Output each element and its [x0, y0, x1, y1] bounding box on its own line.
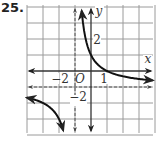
axes: [29, 9, 151, 131]
y-axis-label: y: [95, 4, 103, 18]
coordinate-graph: −212−2Oyx: [0, 0, 165, 148]
y-tick-label-2: 2: [93, 33, 101, 47]
y-tick-label-neg2: −2: [69, 90, 87, 104]
x-axis-label: x: [145, 52, 152, 66]
origin-label: O: [75, 72, 85, 86]
x-tick-label-neg2: −2: [51, 72, 69, 86]
asymptotes: [29, 9, 151, 131]
x-tick-label-1: 1: [100, 72, 108, 86]
